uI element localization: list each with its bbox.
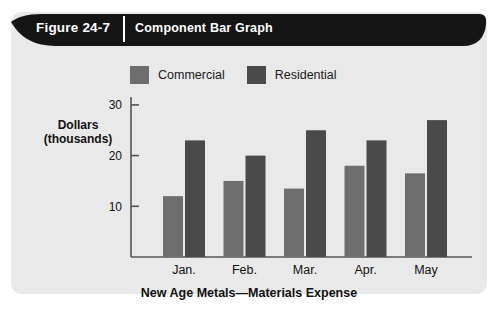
legend-label-commercial: Commercial xyxy=(158,68,225,82)
legend-swatch-residential xyxy=(247,66,266,84)
header-bar-shape xyxy=(11,12,487,48)
chart-title: New Age Metals—Materials Expense xyxy=(0,286,498,300)
y-axis-title: Dollars (thousands) xyxy=(36,118,120,146)
legend-label-residential: Residential xyxy=(275,68,337,82)
legend-swatch-commercial xyxy=(130,66,149,84)
legend-item-residential: Residential xyxy=(247,66,337,84)
figure-container: Figure 24-7 Component Bar Graph Commerci… xyxy=(0,0,498,317)
y-axis-title-line1: Dollars xyxy=(36,118,120,132)
legend-item-commercial: Commercial xyxy=(130,66,225,84)
figure-panel xyxy=(11,12,487,294)
y-axis-title-line2: (thousands) xyxy=(36,132,120,146)
chart-legend: Commercial Residential xyxy=(130,66,337,84)
figure-header-bar: Figure 24-7 Component Bar Graph xyxy=(11,12,487,48)
